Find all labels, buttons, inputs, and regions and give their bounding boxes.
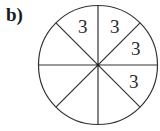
sector-label-3: 3: [131, 38, 141, 59]
divided-circle: 3 3 3 3: [0, 0, 160, 131]
sector-label-2: 3: [110, 16, 120, 37]
sector-label-1: 3: [78, 16, 88, 37]
sector-label-4: 3: [129, 71, 139, 92]
center-point: [97, 64, 100, 67]
